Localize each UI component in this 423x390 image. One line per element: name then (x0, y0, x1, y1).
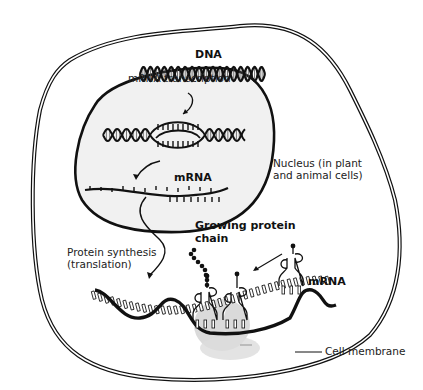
anticodon-base (204, 320, 207, 328)
codon-base (173, 306, 178, 314)
label-mrna-transcription: mRNA transcription (128, 72, 231, 84)
codon-base (268, 283, 273, 291)
codon-base (249, 289, 254, 297)
amino-acid (235, 272, 240, 277)
anticodon-base (282, 286, 285, 294)
codon-base (91, 291, 96, 299)
codon-base (129, 302, 134, 310)
codon-base (293, 278, 298, 286)
amino-acid-bead (192, 256, 197, 261)
amino-acid-bead (189, 252, 194, 257)
anticodon-base (298, 286, 301, 294)
codon-base (161, 306, 166, 314)
codon-base (142, 304, 147, 312)
label-growing-protein-chain: Growing protein chain (195, 220, 296, 245)
anticodon-base (212, 320, 215, 328)
anticodon-base (290, 286, 293, 294)
codon-base (123, 300, 128, 308)
nucleus (75, 68, 274, 232)
trna-incoming (279, 244, 303, 294)
anticodon-base (226, 320, 229, 328)
growing-protein-chain (189, 248, 210, 288)
label-cytoplasm-mrna: mRNA (308, 276, 346, 289)
amino-acid-bead (205, 278, 210, 283)
amino-acid-bead (205, 283, 210, 288)
label-nucleus: Nucleus (in plant and animal cells) (273, 157, 363, 181)
anticodon-base (196, 320, 199, 328)
codon-base (256, 287, 261, 295)
amino-acid-bead (200, 264, 205, 269)
trna-arrow (255, 254, 282, 270)
codon-base (136, 303, 141, 311)
label-protein-synthesis: Protein synthesis (translation) (67, 246, 157, 270)
amino-acid-bead (204, 273, 209, 278)
label-dna: DNA (195, 49, 222, 62)
codon-base (167, 306, 172, 314)
codon-base (262, 285, 267, 293)
amino-acid-bead (192, 248, 197, 253)
anticodon-base (234, 320, 237, 328)
amino-acid-bead (203, 268, 208, 273)
anticodon-base (242, 320, 245, 328)
protein-synthesis-diagram: DNA mRNA transcription mRNA Nucleus (in … (0, 0, 423, 390)
amino-acid-bead (196, 260, 201, 265)
label-cell-membrane: Cell membrane (325, 345, 405, 357)
label-nucleus-mrna: mRNA (174, 172, 212, 185)
